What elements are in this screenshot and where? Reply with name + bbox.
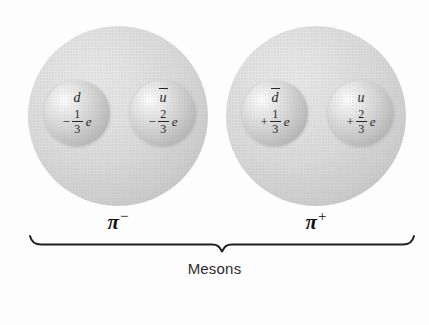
charge-sign: +	[346, 115, 353, 128]
fraction-numerator: 1	[272, 108, 278, 121]
pion-charge-superscript: −	[120, 208, 128, 224]
charge-unit: e	[370, 115, 376, 128]
quark-charge-d-bar: + 1 3 e	[260, 108, 289, 135]
pion-symbol: π	[108, 210, 119, 234]
quark-symbol-d: d	[74, 91, 81, 105]
quark-symbol-u-bar: u	[160, 91, 167, 105]
quark-charge-d: − 1 3 e	[62, 108, 91, 135]
pion-label-pi-minus: π−	[28, 208, 208, 235]
meson-sphere-pi-plus: d + 1 3 e u + 2 3 e	[226, 26, 406, 206]
charge-unit: e	[284, 115, 290, 128]
charge-sign: +	[260, 115, 267, 128]
charge-sign: −	[62, 115, 69, 128]
fraction-numerator: 1	[74, 108, 80, 121]
pion-charge-superscript: +	[318, 208, 326, 224]
figure-caption: Mesons	[0, 260, 429, 277]
charge-unit: e	[86, 115, 92, 128]
fraction-numerator: 2	[358, 108, 364, 121]
fraction-denominator: 3	[160, 122, 166, 135]
quark-sphere-u-bar: u − 2 3 e	[130, 80, 196, 146]
charge-unit: e	[172, 115, 178, 128]
fraction-denominator: 3	[272, 122, 278, 135]
pion-label-pi-plus: π+	[226, 208, 406, 235]
meson-sphere-pi-minus: d − 1 3 e u − 2 3 e	[28, 26, 208, 206]
quark-symbol-u: u	[358, 91, 365, 105]
quark-sphere-d: d − 1 3 e	[44, 80, 110, 146]
grouping-brace	[24, 234, 416, 260]
quark-sphere-d-bar: d + 1 3 e	[242, 80, 308, 146]
meson-quark-composition-diagram: d − 1 3 e u − 2 3 e	[0, 0, 429, 325]
charge-sign: −	[148, 115, 155, 128]
charge-fraction: 1 3	[270, 108, 281, 135]
fraction-numerator: 2	[160, 108, 166, 121]
pion-symbol: π	[306, 210, 317, 234]
quark-sphere-u: u + 2 3 e	[328, 80, 394, 146]
quark-symbol-d-bar: d	[272, 91, 279, 105]
charge-fraction: 2 3	[158, 108, 169, 135]
charge-fraction: 1 3	[72, 108, 83, 135]
fraction-denominator: 3	[74, 122, 80, 135]
fraction-denominator: 3	[358, 122, 364, 135]
quark-charge-u-bar: − 2 3 e	[148, 108, 177, 135]
quark-charge-u: + 2 3 e	[346, 108, 375, 135]
charge-fraction: 2 3	[356, 108, 367, 135]
